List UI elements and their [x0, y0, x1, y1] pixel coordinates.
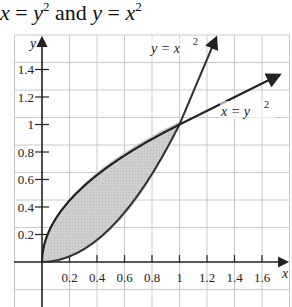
x-tick-0.8: 0.8 [144, 270, 160, 285]
x-tick-1.4: 1.4 [226, 270, 243, 285]
y-tick-0.4: 0.4 [18, 200, 35, 215]
x-tick-0.2: 0.2 [61, 270, 77, 285]
x-axis-label: x [281, 266, 289, 281]
label-y-equals-x-squared: y = x 2 [149, 36, 201, 56]
x-ticks [70, 255, 263, 262]
y-tick-0.2: 0.2 [18, 227, 34, 242]
label-y-eq-x-text: y = x [149, 41, 181, 56]
y-tick-1.2: 1.2 [18, 90, 34, 105]
y-tick-0.8: 0.8 [18, 145, 34, 160]
y-tick-labels: 0.2 0.4 0.6 0.8 1 1.2 1.4 [18, 62, 35, 242]
label-x-equals-y-squared: x = y 2 [220, 99, 276, 119]
chart-plot: 0.2 0.4 0.6 0.8 1 1.2 1.4 1.6 0.2 0.4 0.… [0, 0, 292, 307]
y-tick-1.4: 1.4 [18, 62, 35, 77]
y-axis-label: y [28, 36, 37, 51]
label-x-eq-y-text: x = y [220, 104, 251, 119]
x-tick-labels: 0.2 0.4 0.6 0.8 1 1.2 1.4 1.6 [61, 270, 270, 285]
label-x-eq-y-exp: 2 [264, 99, 269, 110]
x-tick-1: 1 [176, 270, 183, 285]
y-tick-1: 1 [28, 117, 35, 132]
x-tick-0.4: 0.4 [89, 270, 106, 285]
label-y-eq-x-exp: 2 [193, 36, 198, 47]
x-tick-1.2: 1.2 [199, 270, 215, 285]
y-tick-0.6: 0.6 [18, 172, 35, 187]
x-tick-1.6: 1.6 [254, 270, 271, 285]
x-tick-0.6: 0.6 [116, 270, 133, 285]
